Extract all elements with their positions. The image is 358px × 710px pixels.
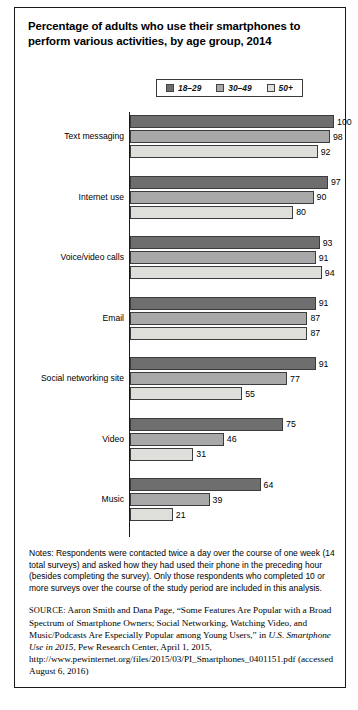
bar-value-label: 97 (331, 177, 341, 187)
bar (130, 297, 316, 310)
bar-group: Social networking site917755 (15, 357, 345, 418)
bar (130, 418, 283, 431)
bar-row: 80 (130, 206, 306, 219)
bar-group: Voice/video calls939194 (15, 236, 345, 297)
bar (130, 433, 224, 446)
bar (130, 387, 242, 400)
bar-value-label: 77 (290, 374, 300, 384)
bar-value-label: 100 (337, 117, 352, 127)
bar (130, 191, 314, 204)
bar-value-label: 39 (213, 495, 223, 505)
bar-row: 75 (130, 418, 296, 431)
bar-row: 93 (130, 236, 333, 249)
category-label: Social networking site (0, 373, 124, 383)
bar (130, 478, 261, 491)
bar-row: 94 (130, 266, 335, 279)
category-label: Voice/video calls (0, 252, 124, 262)
bar-value-label: 75 (286, 419, 296, 429)
bar-value-label: 80 (296, 207, 306, 217)
bar (130, 493, 210, 506)
bar-group: Text messaging1009892 (15, 115, 345, 176)
bar (130, 266, 322, 279)
source-label: SOURCE: (29, 606, 66, 615)
bar-row: 21 (130, 508, 186, 521)
bar (130, 206, 293, 219)
legend-entry: 18–29 (166, 83, 201, 93)
bar-row: 98 (130, 130, 343, 143)
page-title: Percentage of adults who use their smart… (28, 19, 332, 48)
bar-group: Video754631 (15, 418, 345, 479)
bar-value-label: 87 (310, 328, 320, 338)
bar-value-label: 91 (319, 298, 329, 308)
bar-value-label: 46 (227, 434, 237, 444)
legend-swatch-icon (267, 84, 275, 92)
bar (130, 251, 316, 264)
bar-group: Email918787 (15, 297, 345, 358)
source-text-part2: , Pew Research Center, April 1, 2015, ht… (29, 642, 333, 676)
bar-row: 87 (130, 327, 320, 340)
bar (130, 115, 334, 128)
bar-row: 64 (130, 478, 273, 491)
bar-group: Music643921 (15, 478, 345, 539)
bar-value-label: 31 (196, 449, 206, 459)
category-label: Video (0, 434, 124, 444)
bar-row: 90 (130, 191, 326, 204)
bar (130, 372, 287, 385)
bar-group: Internet use979080 (15, 176, 345, 237)
bar-value-label: 92 (321, 147, 331, 157)
bar (130, 327, 307, 340)
bar (130, 176, 328, 189)
bar-row: 31 (130, 448, 206, 461)
legend-swatch-icon (216, 84, 224, 92)
category-label: Music (0, 494, 124, 504)
source-citation: SOURCE: Aaron Smith and Dana Page, “Some… (29, 604, 334, 678)
bar-row: 87 (130, 312, 320, 325)
bar (130, 312, 307, 325)
legend-entry: 50+ (267, 83, 293, 93)
legend-label: 50+ (279, 83, 293, 93)
bar-value-label: 21 (176, 510, 186, 520)
bar-row: 91 (130, 297, 328, 310)
category-label: Email (0, 313, 124, 323)
bar-row: 91 (130, 357, 328, 370)
category-label: Text messaging (0, 131, 124, 141)
bar-value-label: 98 (333, 132, 343, 142)
bar (130, 130, 330, 143)
bar-row: 100 (130, 115, 352, 128)
bar-value-label: 87 (310, 313, 320, 323)
legend-swatch-icon (166, 84, 174, 92)
bar-value-label: 93 (323, 238, 333, 248)
bar-value-label: 91 (319, 359, 329, 369)
bar (130, 357, 316, 370)
bar-row: 91 (130, 251, 328, 264)
bar-row: 46 (130, 433, 237, 446)
bar-value-label: 64 (264, 480, 274, 490)
legend-entry: 30–49 (216, 83, 251, 93)
bar (130, 236, 320, 249)
bar-row: 92 (130, 145, 330, 158)
legend-label: 18–29 (178, 83, 201, 93)
bar-row: 77 (130, 372, 300, 385)
bar-row: 97 (130, 176, 341, 189)
bar (130, 508, 173, 521)
bar-value-label: 55 (245, 389, 255, 399)
bar-value-label: 91 (319, 253, 329, 263)
bar-chart-plot-area: Text messaging1009892Internet use979080V… (15, 112, 345, 537)
legend-label: 30–49 (228, 83, 251, 93)
figure-container: Percentage of adults who use their smart… (14, 7, 346, 688)
notes-text: Notes: Respondents were contacted twice … (29, 548, 336, 594)
bar (130, 448, 193, 461)
bar-row: 55 (130, 387, 255, 400)
bar-value-label: 90 (317, 192, 327, 202)
bar-value-label: 94 (325, 268, 335, 278)
chart-legend: 18–2930–4950+ (156, 79, 303, 97)
category-label: Internet use (0, 192, 124, 202)
bar (130, 145, 318, 158)
bar-row: 39 (130, 493, 222, 506)
